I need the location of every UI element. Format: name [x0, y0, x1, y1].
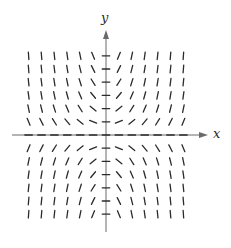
slope-segment: [41, 92, 42, 99]
slope-segment: [66, 92, 68, 99]
slope-segment: [90, 106, 96, 111]
slope-segment: [40, 118, 43, 125]
slope-segment: [79, 52, 81, 59]
slope-segment: [142, 119, 147, 125]
slope-field-diagram: x y: [0, 0, 231, 248]
slope-segment: [79, 92, 82, 99]
slope-segment: [66, 105, 69, 112]
slope-segment: [144, 65, 145, 72]
slope-segment: [170, 52, 171, 59]
slope-segment: [27, 145, 30, 152]
slope-segment: [28, 78, 29, 85]
slope-segment: [143, 158, 146, 165]
slope-segment: [131, 197, 133, 204]
slope-segment: [67, 52, 68, 59]
slope-segment: [28, 92, 29, 99]
slope-segment: [78, 158, 82, 164]
slope-segment: [52, 119, 56, 125]
slope-segment: [91, 79, 95, 85]
slope-segment: [28, 171, 29, 178]
slope-segment: [65, 145, 70, 151]
slope-segment: [156, 158, 158, 165]
slope-segment: [170, 65, 171, 72]
slope-segment: [77, 146, 83, 151]
slope-segment: [170, 105, 172, 112]
slope-segment: [157, 92, 159, 99]
slope-segment: [54, 65, 55, 72]
slope-segment: [28, 52, 29, 59]
slope-segment: [90, 159, 96, 164]
slope-segment: [67, 210, 68, 217]
slope-segment: [40, 145, 43, 152]
slope-segment: [169, 145, 172, 152]
slope-segment: [170, 210, 171, 217]
slope-segment: [170, 171, 171, 178]
slope-segment: [41, 184, 42, 191]
slope-segment: [144, 171, 146, 178]
slope-segment: [117, 79, 121, 85]
slope-segment: [67, 184, 69, 191]
slope-segment: [54, 92, 56, 99]
slope-segment: [78, 105, 82, 111]
slope-segment: [90, 147, 97, 150]
slope-segment: [183, 52, 184, 59]
slope-segment: [130, 92, 133, 99]
slope-segment: [28, 65, 29, 72]
slope-segment: [131, 79, 133, 86]
slope-segment: [142, 145, 147, 151]
slope-segment: [41, 210, 42, 217]
slope-segment: [54, 184, 55, 191]
slope-segment: [117, 52, 120, 59]
slope-segment: [131, 184, 133, 191]
slope-segment: [53, 158, 55, 165]
slope-segment: [28, 158, 30, 165]
slope-segment: [65, 119, 70, 125]
slope-segment: [79, 197, 81, 204]
slope-segment: [183, 197, 184, 204]
slope-segment: [54, 171, 56, 178]
slope-segment: [130, 105, 134, 111]
slope-segment: [157, 210, 158, 217]
slope-segment: [79, 184, 81, 191]
x-axis-arrowhead-icon: [199, 132, 208, 138]
slope-segment: [156, 145, 160, 151]
slope-segment: [66, 158, 69, 165]
slope-field-plot: [0, 0, 231, 248]
slope-segment: [116, 106, 122, 111]
slope-segment: [130, 171, 133, 178]
slope-segment: [92, 52, 95, 59]
slope-segment: [41, 171, 42, 178]
slope-segment: [183, 65, 184, 72]
slope-segment: [91, 198, 94, 205]
slope-segment: [41, 158, 43, 165]
slope-segment: [130, 158, 134, 164]
slope-segment: [157, 65, 158, 72]
slope-segment: [27, 118, 30, 125]
slope-segment: [183, 105, 185, 112]
slope-segment: [67, 79, 69, 86]
x-axis-label: x: [213, 127, 220, 140]
slope-segment: [157, 184, 158, 191]
slope-segment: [170, 197, 171, 204]
slope-segment: [131, 211, 133, 218]
slope-segment: [28, 184, 29, 191]
slope-segment: [131, 65, 133, 72]
slope-segment: [90, 120, 97, 123]
slope-segment: [183, 171, 184, 178]
slope-segment: [157, 52, 158, 59]
y-axis-arrowhead-icon: [103, 30, 109, 39]
slope-segment: [144, 210, 145, 217]
slope-segment: [52, 145, 56, 151]
slope-segment: [116, 159, 122, 164]
slope-segment: [183, 158, 185, 165]
slope-segment: [117, 172, 122, 178]
slope-segment: [67, 197, 68, 204]
slope-segment: [156, 119, 160, 125]
slope-segment: [28, 197, 29, 204]
slope-segment: [79, 79, 81, 86]
slope-segment: [28, 210, 29, 217]
slope-segment: [41, 197, 42, 204]
slope-segment: [41, 78, 42, 85]
slope-segment: [54, 78, 55, 85]
slope-segment: [117, 198, 120, 205]
